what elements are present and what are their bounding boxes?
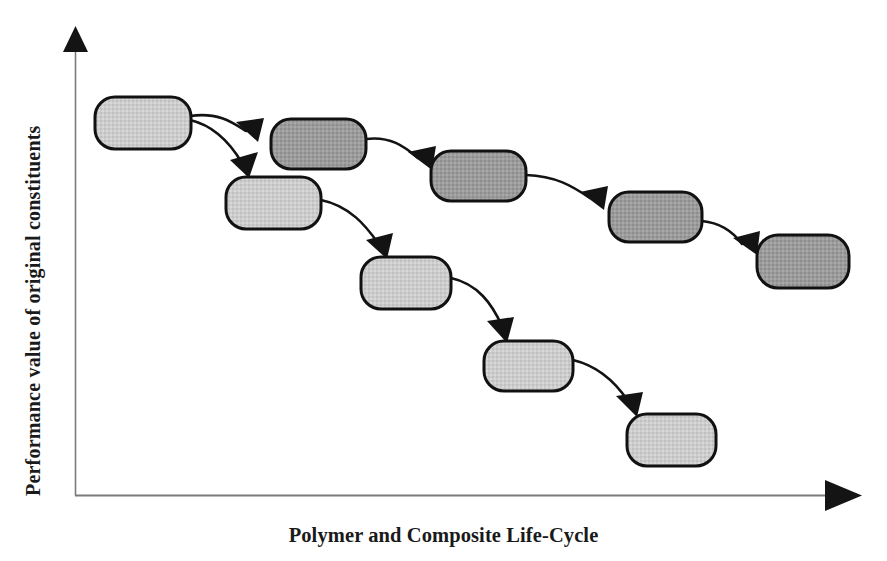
node-n1-shape[interactable] (95, 97, 191, 149)
connector-n7-n8 (451, 278, 502, 326)
node-n2-shape[interactable] (271, 119, 366, 169)
node-n6-shape[interactable] (226, 177, 321, 229)
node-n9[interactable] (627, 414, 716, 466)
arrowhead-n7-n8-icon (487, 317, 514, 343)
connector-n3-n4 (526, 175, 590, 198)
arrowhead-n1-n6-icon (230, 152, 258, 178)
node-n4[interactable] (609, 192, 702, 242)
connector-n1-n6 (190, 120, 242, 163)
node-n6[interactable] (226, 177, 321, 229)
connector-n2-n3 (366, 138, 418, 158)
x-axis-label: Polymer and Composite Life-Cycle (0, 524, 887, 547)
cascade-diagram-svg (0, 0, 887, 561)
node-n3-shape[interactable] (431, 151, 526, 201)
axes-group (63, 26, 862, 511)
node-n4-shape[interactable] (609, 192, 702, 242)
node-n5[interactable] (757, 235, 849, 288)
arrowhead-n8-n9-icon (616, 392, 643, 417)
node-n7-shape[interactable] (361, 257, 451, 309)
connector-n6-n7 (321, 200, 378, 243)
node-n5-shape[interactable] (757, 235, 849, 288)
node-n3[interactable] (431, 151, 526, 201)
node-n9-shape[interactable] (627, 414, 716, 466)
arrowhead-n6-n7-icon (366, 233, 393, 259)
connector-n8-n9 (573, 360, 628, 401)
node-n1[interactable] (95, 97, 191, 149)
x-axis-arrowhead-icon (825, 480, 862, 511)
y-axis-label: Performance value of original constituen… (22, 26, 56, 496)
node-n8-shape[interactable] (484, 341, 573, 391)
nodes-group (95, 97, 849, 466)
node-n7[interactable] (361, 257, 451, 309)
node-n8[interactable] (484, 341, 573, 391)
arrowhead-n3-n4-icon (580, 186, 608, 210)
y-axis-arrowhead-icon (63, 26, 88, 52)
diagram-canvas: Performance value of original constituen… (0, 0, 887, 561)
connector-n4-n5 (702, 221, 742, 244)
arrowhead-n1-n2-icon (236, 118, 264, 142)
node-n2[interactable] (271, 119, 366, 169)
